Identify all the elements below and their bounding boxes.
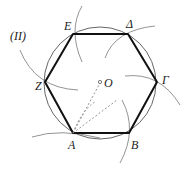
vertex-label-gamma: Γ bbox=[161, 73, 170, 87]
dashed-arc-near-A bbox=[73, 102, 95, 133]
figure-label: (II) bbox=[10, 29, 26, 43]
dashed-segment-A-P bbox=[73, 100, 117, 133]
vertex-label-A: A bbox=[67, 138, 76, 152]
dashed-segment-A-O bbox=[73, 83, 100, 133]
vertex-label-delta: Δ bbox=[125, 17, 133, 31]
center-label-O: O bbox=[104, 76, 113, 90]
vertex-label-E: E bbox=[63, 19, 72, 33]
vertex-label-Z: Z bbox=[35, 79, 42, 93]
hexagon-construction-diagram: (II) O A B Γ Δ E Z bbox=[0, 0, 186, 170]
arc-at-Z bbox=[20, 50, 78, 90]
vertex-label-B: B bbox=[131, 138, 139, 152]
center-point-O bbox=[98, 80, 101, 83]
